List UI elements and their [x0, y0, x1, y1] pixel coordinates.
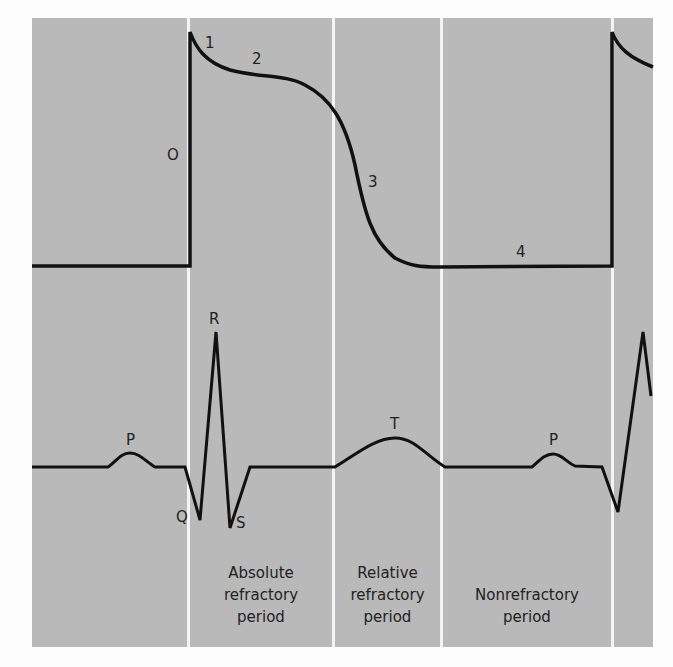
action-potential-trace [32, 32, 653, 267]
absolute-line1: Absolute [190, 562, 332, 584]
nonrefractory-period-label: Nonrefractory period [443, 584, 611, 628]
relative-line2: refractory [335, 584, 440, 606]
nonrefractory-line2: period [443, 606, 611, 628]
ecg-trace [32, 332, 651, 528]
relative-line3: period [335, 606, 440, 628]
t-wave-label: T [390, 415, 399, 433]
phase-4-label: 4 [516, 243, 526, 261]
absolute-line3: period [190, 606, 332, 628]
cardiac-action-potential-ecg-diagram: O 1 2 3 4 P Q R S T P Absolute refractor… [0, 0, 673, 667]
p-wave-label-2: P [549, 431, 558, 449]
nonrefractory-line1: Nonrefractory [443, 584, 611, 606]
relative-refractory-period-label: Relative refractory period [335, 562, 440, 628]
relative-line1: Relative [335, 562, 440, 584]
absolute-refractory-period-label: Absolute refractory period [190, 562, 332, 628]
absolute-line2: refractory [190, 584, 332, 606]
p-wave-label: P [126, 431, 135, 449]
s-wave-label: S [236, 514, 246, 532]
phase-3-label: 3 [368, 173, 378, 191]
phase-2-label: 2 [252, 50, 262, 68]
q-wave-label: Q [176, 508, 188, 526]
phase-0-label: O [167, 146, 179, 164]
phase-1-label: 1 [205, 34, 215, 52]
r-wave-label: R [209, 310, 219, 328]
